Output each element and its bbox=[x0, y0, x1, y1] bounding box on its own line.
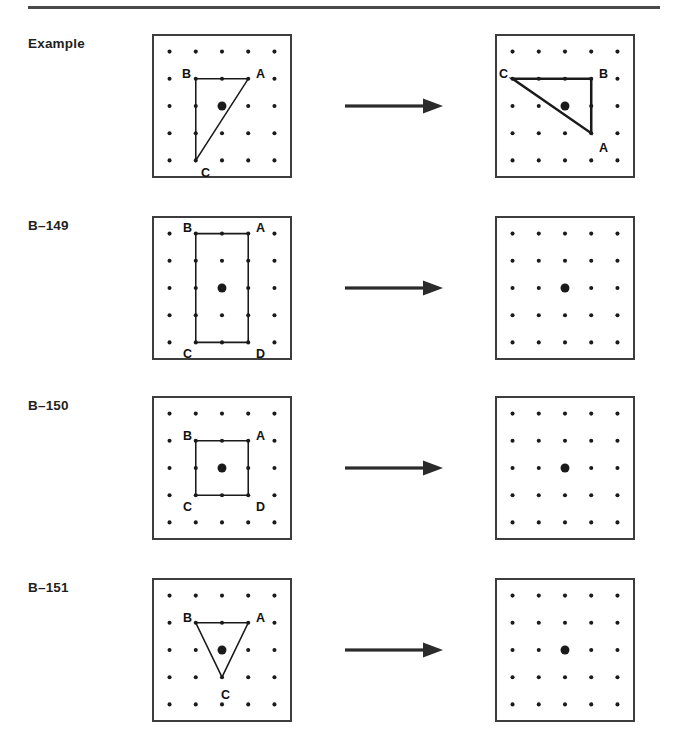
grid-dot bbox=[537, 104, 541, 108]
b-150-left-vertex-label-d: D bbox=[256, 501, 265, 514]
grid-dot bbox=[511, 131, 515, 135]
b-149-left-grid-box[interactable]: BADC bbox=[152, 216, 292, 360]
grid-dot bbox=[272, 621, 276, 625]
example-left-vertex-label-a: A bbox=[256, 68, 265, 81]
b-150-left-vertex-label-b: B bbox=[183, 430, 192, 443]
grid-dot bbox=[168, 493, 172, 497]
grid-dot bbox=[615, 286, 619, 290]
b-151-left-vertex-label-b: B bbox=[183, 612, 192, 625]
example-right-grid-box[interactable]: CBA bbox=[495, 34, 635, 178]
grid-dot bbox=[537, 158, 541, 162]
grid-dot bbox=[589, 675, 593, 679]
grid-dot bbox=[615, 520, 619, 524]
example-right-dot-grid bbox=[497, 36, 633, 176]
grid-dot bbox=[589, 493, 593, 497]
grid-dot bbox=[589, 648, 593, 652]
b-150-left-grid-box[interactable]: BADC bbox=[152, 396, 292, 540]
grid-dot bbox=[272, 466, 276, 470]
center-dot bbox=[561, 646, 570, 655]
problem-label-b-151: B–151 bbox=[28, 580, 69, 595]
grid-dot bbox=[615, 466, 619, 470]
grid-dot bbox=[220, 313, 224, 317]
center-dot bbox=[561, 102, 570, 111]
grid-dot bbox=[511, 702, 515, 706]
grid-dot bbox=[511, 520, 515, 524]
b-150-right-grid-box[interactable] bbox=[495, 396, 635, 540]
grid-dot bbox=[272, 259, 276, 263]
b-149-left-vertex-label-b: B bbox=[183, 222, 192, 235]
grid-dot bbox=[589, 259, 593, 263]
grid-dot bbox=[168, 520, 172, 524]
grid-dot bbox=[168, 648, 172, 652]
b-149-left-vertex-label-d: D bbox=[256, 348, 265, 361]
grid-dot bbox=[537, 313, 541, 317]
grid-dot bbox=[589, 702, 593, 706]
arrow-shaft bbox=[345, 104, 427, 107]
grid-dot bbox=[272, 104, 276, 108]
grid-dot bbox=[272, 648, 276, 652]
grid-dot bbox=[168, 340, 172, 344]
center-dot bbox=[218, 284, 227, 293]
grid-dot bbox=[511, 50, 515, 54]
grid-dot bbox=[220, 50, 224, 54]
grid-dot bbox=[511, 412, 515, 416]
grid-dot bbox=[615, 594, 619, 598]
b-151-left-vertex-label-c: C bbox=[221, 689, 230, 702]
grid-dot bbox=[272, 158, 276, 162]
grid-dot bbox=[272, 675, 276, 679]
grid-dot bbox=[537, 594, 541, 598]
grid-dot bbox=[537, 520, 541, 524]
b-151-transformation-arrow bbox=[345, 639, 443, 661]
b-151-right-dot-grid bbox=[497, 580, 633, 720]
problem-label-b-149: B–149 bbox=[28, 218, 69, 233]
grid-dot bbox=[246, 104, 250, 108]
arrow-right-icon bbox=[345, 95, 443, 117]
grid-dot bbox=[589, 286, 593, 290]
grid-dot bbox=[194, 520, 198, 524]
grid-dot bbox=[589, 466, 593, 470]
center-dot bbox=[561, 464, 570, 473]
grid-dot bbox=[220, 131, 224, 135]
problem-label-example: Example bbox=[28, 36, 85, 51]
example-left-dot-grid bbox=[154, 36, 290, 176]
grid-dot bbox=[246, 675, 250, 679]
arrow-right-icon bbox=[345, 457, 443, 479]
header-rule bbox=[28, 6, 660, 9]
b-150-left-vertex-label-c: C bbox=[183, 501, 192, 514]
grid-dot bbox=[615, 131, 619, 135]
grid-dot bbox=[563, 313, 567, 317]
grid-dot bbox=[589, 158, 593, 162]
grid-dot bbox=[246, 50, 250, 54]
b-151-left-grid-box[interactable]: BAC bbox=[152, 578, 292, 722]
example-left-grid-box[interactable]: ABC bbox=[152, 34, 292, 178]
grid-dot bbox=[537, 259, 541, 263]
grid-dot bbox=[537, 340, 541, 344]
grid-dot bbox=[589, 232, 593, 236]
grid-dot bbox=[194, 50, 198, 54]
grid-dot bbox=[511, 158, 515, 162]
b-150-left-dot-grid bbox=[154, 398, 290, 538]
grid-dot bbox=[537, 702, 541, 706]
grid-dot bbox=[168, 77, 172, 81]
example-right-vertex-label-c: C bbox=[499, 68, 508, 81]
grid-dot bbox=[194, 594, 198, 598]
grid-dot bbox=[511, 286, 515, 290]
arrow-head bbox=[423, 461, 443, 476]
b-149-right-grid-box[interactable] bbox=[495, 216, 635, 360]
grid-dot bbox=[511, 104, 515, 108]
grid-dot bbox=[511, 675, 515, 679]
grid-dot bbox=[589, 594, 593, 598]
grid-dot bbox=[511, 594, 515, 598]
b-149-left-dot-grid bbox=[154, 218, 290, 358]
grid-dot bbox=[537, 232, 541, 236]
grid-dot bbox=[615, 104, 619, 108]
grid-dot bbox=[589, 621, 593, 625]
grid-dot bbox=[615, 77, 619, 81]
b-151-left-vertex-label-a: A bbox=[256, 612, 265, 625]
grid-dot bbox=[168, 313, 172, 317]
grid-dot bbox=[589, 340, 593, 344]
grid-dot bbox=[615, 702, 619, 706]
b-151-right-grid-box[interactable] bbox=[495, 578, 635, 722]
problem-label-b-150: B–150 bbox=[28, 398, 69, 413]
grid-dot bbox=[511, 259, 515, 263]
